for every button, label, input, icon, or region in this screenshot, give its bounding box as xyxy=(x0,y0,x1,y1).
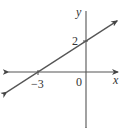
chart: x y 0 −3 2 xyxy=(0,0,124,128)
origin-label: 0 xyxy=(76,75,82,89)
y-axis-label: y xyxy=(75,5,82,19)
y-tick-label: 2 xyxy=(72,34,78,48)
x-tick-label: −3 xyxy=(31,77,44,91)
series-line xyxy=(7,21,117,92)
x-axis-label: x xyxy=(112,73,119,87)
